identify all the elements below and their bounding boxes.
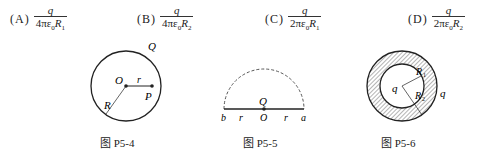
caption-p5-6: 图 P5-6 bbox=[381, 134, 416, 150]
label-R1: R bbox=[415, 66, 422, 77]
caption-p5-4: 图 P5-4 bbox=[100, 134, 135, 150]
label-a: a bbox=[301, 112, 306, 123]
label-R2: R bbox=[414, 90, 421, 101]
point-O bbox=[262, 107, 266, 111]
label-r-left: r bbox=[239, 112, 243, 123]
label-R1-sub: 1 bbox=[423, 72, 426, 78]
radius-R1-line bbox=[402, 76, 421, 86]
label-Q: Q bbox=[148, 40, 156, 52]
point-P bbox=[150, 84, 154, 88]
figure-p5-5: Q b r O r a bbox=[221, 69, 306, 123]
label-Q: Q bbox=[259, 95, 267, 107]
label-R2-sub: 2 bbox=[422, 96, 425, 102]
point-O bbox=[124, 84, 128, 88]
label-q-inner: q bbox=[392, 82, 398, 94]
label-q-outer: q bbox=[440, 87, 446, 99]
label-b: b bbox=[221, 112, 226, 123]
caption-p5-5: 图 P5-5 bbox=[243, 134, 278, 150]
label-R: R bbox=[103, 99, 111, 111]
label-r-right: r bbox=[284, 112, 288, 123]
label-r: r bbox=[137, 74, 141, 85]
figure-p5-4: Q O r P R bbox=[91, 40, 161, 121]
label-O: O bbox=[115, 74, 123, 86]
label-P: P bbox=[144, 90, 152, 102]
figure-p5-6: q R 1 R 2 q bbox=[367, 51, 446, 121]
label-O: O bbox=[260, 112, 267, 123]
